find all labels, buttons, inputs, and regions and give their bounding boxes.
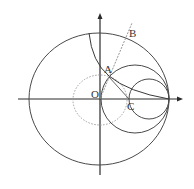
geometry-diagram: B A O C: [0, 0, 194, 189]
label-B: B: [129, 27, 136, 39]
label-C: C: [127, 100, 134, 112]
y-axis-arrow-icon: [98, 13, 103, 19]
label-O: O: [91, 88, 99, 100]
label-A: A: [104, 63, 112, 75]
segment-AC: [109, 77, 129, 99]
x-axis-arrow-icon: [177, 97, 183, 102]
